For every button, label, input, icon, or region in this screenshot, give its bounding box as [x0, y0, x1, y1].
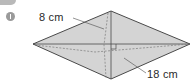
- rhombus-diagram: 8 cm 18 cm: [0, 0, 192, 83]
- long-diagonal-label: 18 cm: [147, 69, 178, 80]
- short-diagonal-label: 8 cm: [39, 12, 64, 23]
